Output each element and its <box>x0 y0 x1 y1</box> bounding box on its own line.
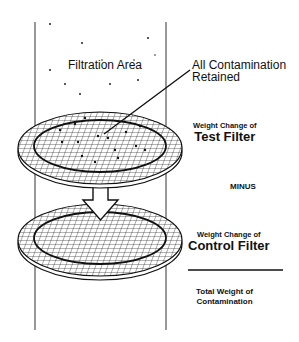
test-filter-label: Weight Change of Test Filter <box>193 121 257 143</box>
control-filter-title: Control Filter <box>188 239 270 252</box>
total-weight-line2: Contamination <box>196 297 253 307</box>
control-filter-label: Weight Change of Control Filter <box>188 230 270 252</box>
contamination-label: All Contamination Retained <box>192 59 286 83</box>
total-weight-line1: Total Weight of <box>196 287 253 297</box>
test-filter-disc <box>18 112 182 188</box>
total-weight-label: Total Weight of Contamination <box>196 287 253 307</box>
filtration-diagram <box>0 0 299 342</box>
filtration-area-label: Filtration Area <box>68 58 142 72</box>
test-filter-title: Test Filter <box>193 130 257 143</box>
minus-label: MINUS <box>230 182 256 191</box>
contamination-label-line2: Retained <box>192 71 286 83</box>
